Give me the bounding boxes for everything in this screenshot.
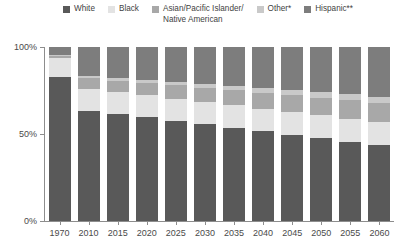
bar-segment[interactable] — [310, 138, 332, 221]
stacked-bar[interactable] — [310, 47, 332, 221]
bar-segment[interactable] — [107, 47, 129, 78]
bar-segment[interactable] — [223, 128, 245, 221]
bar-slot[interactable]: 2055 — [336, 47, 365, 221]
x-axis-tick-label: 2010 — [79, 228, 99, 238]
bar-segment[interactable] — [194, 47, 216, 84]
x-axis-tick-mark — [321, 221, 322, 225]
bar-segment[interactable] — [339, 119, 361, 142]
bar-segment[interactable] — [194, 124, 216, 221]
bar-segment[interactable] — [49, 47, 71, 55]
bar-segment[interactable] — [252, 93, 274, 109]
bar-segment[interactable] — [281, 47, 303, 90]
stacked-bar[interactable] — [78, 47, 100, 221]
bar-segment[interactable] — [78, 89, 100, 111]
bar-segment[interactable] — [310, 98, 332, 116]
stacked-bar[interactable] — [252, 47, 274, 221]
bar-segment[interactable] — [165, 99, 187, 121]
bar-segment[interactable] — [310, 115, 332, 138]
bar-segment[interactable] — [368, 103, 390, 122]
bar-slot[interactable]: 2010 — [74, 47, 103, 221]
bar-segment[interactable] — [223, 47, 245, 86]
legend-item[interactable]: White — [63, 4, 95, 15]
stacked-bar[interactable] — [339, 47, 361, 221]
x-axis-tick-label: 2045 — [282, 228, 302, 238]
bar-slot[interactable]: 2015 — [103, 47, 132, 221]
legend-swatch-icon — [304, 6, 311, 13]
x-axis-line — [44, 221, 394, 222]
legend-item-label: Black — [119, 4, 139, 15]
bar-segment[interactable] — [194, 88, 216, 102]
stacked-bar[interactable] — [223, 47, 245, 221]
bar-slot[interactable]: 2060 — [365, 47, 394, 221]
x-axis-tick-mark — [234, 221, 235, 225]
bar-segment[interactable] — [339, 47, 361, 94]
bar-segment[interactable] — [165, 121, 187, 221]
bar-segment[interactable] — [368, 47, 390, 97]
x-axis-tick-mark — [118, 221, 119, 225]
stacked-bar[interactable] — [281, 47, 303, 221]
bar-segment[interactable] — [136, 83, 158, 95]
legend-item[interactable]: Black — [108, 4, 139, 15]
x-axis-tick-label: 2050 — [311, 228, 331, 238]
y-axis-tick-mark — [40, 47, 44, 48]
bar-segment[interactable] — [107, 92, 129, 114]
legend-item[interactable]: Asian/Pacific Islander/ Native American — [152, 4, 244, 25]
bar-segment[interactable] — [281, 95, 303, 112]
legend-item-label: Hispanic** — [315, 4, 353, 15]
bar-segment[interactable] — [252, 109, 274, 132]
bar-slot[interactable]: 2050 — [307, 47, 336, 221]
bar-segment[interactable] — [223, 90, 245, 105]
bar-segment[interactable] — [78, 111, 100, 221]
bar-slot[interactable]: 2025 — [161, 47, 190, 221]
y-axis-tick-label: 0% — [24, 216, 37, 226]
stacked-bar[interactable] — [368, 47, 390, 221]
bar-segment[interactable] — [339, 100, 361, 118]
bar-segment[interactable] — [252, 47, 274, 88]
bar-slot[interactable]: 2030 — [190, 47, 219, 221]
bar-segment[interactable] — [49, 77, 71, 221]
bar-segment[interactable] — [136, 47, 158, 80]
stacked-bar[interactable] — [136, 47, 158, 221]
x-axis-tick-mark — [60, 221, 61, 225]
legend-item[interactable]: Hispanic** — [304, 4, 353, 15]
legend-swatch-icon — [63, 6, 70, 13]
bar-segment[interactable] — [136, 95, 158, 117]
bar-segment[interactable] — [194, 102, 216, 124]
bar-slot[interactable]: 1970 — [45, 47, 74, 221]
stacked-bar[interactable] — [49, 47, 71, 221]
bar-segment[interactable] — [281, 112, 303, 135]
bar-slot[interactable]: 2035 — [219, 47, 248, 221]
x-axis-tick-label: 2055 — [340, 228, 360, 238]
bar-segment[interactable] — [368, 145, 390, 221]
bar-slot[interactable]: 2045 — [278, 47, 307, 221]
legend-item[interactable]: Other* — [257, 4, 292, 15]
bar-segment[interactable] — [165, 47, 187, 82]
bar-segment[interactable] — [49, 58, 71, 76]
x-axis-tick-mark — [292, 221, 293, 225]
stacked-bar[interactable] — [107, 47, 129, 221]
bar-segment[interactable] — [107, 81, 129, 92]
x-axis-tick-mark — [263, 221, 264, 225]
bar-segment[interactable] — [78, 78, 100, 88]
y-axis-tick-label: 100% — [14, 42, 37, 52]
legend-swatch-icon — [257, 6, 264, 13]
y-axis-tick-mark — [40, 134, 44, 135]
bar-segment[interactable] — [136, 117, 158, 221]
y-axis-tick-mark — [40, 221, 44, 222]
bar-segment[interactable] — [165, 85, 187, 98]
stacked-bar[interactable] — [194, 47, 216, 221]
bar-segment[interactable] — [281, 135, 303, 221]
stacked-bar[interactable] — [165, 47, 187, 221]
bar-segment[interactable] — [107, 114, 129, 221]
bar-segment[interactable] — [310, 47, 332, 92]
bar-segment[interactable] — [339, 142, 361, 221]
x-axis-tick-label: 2015 — [108, 228, 128, 238]
bar-slot[interactable]: 2020 — [132, 47, 161, 221]
x-axis-tick-label: 1970 — [50, 228, 70, 238]
bar-segment[interactable] — [223, 105, 245, 128]
bar-segment[interactable] — [78, 47, 100, 76]
bar-segment[interactable] — [368, 122, 390, 145]
legend-item-label: White — [74, 4, 95, 15]
bar-segment[interactable] — [252, 131, 274, 221]
bar-slot[interactable]: 2040 — [249, 47, 278, 221]
